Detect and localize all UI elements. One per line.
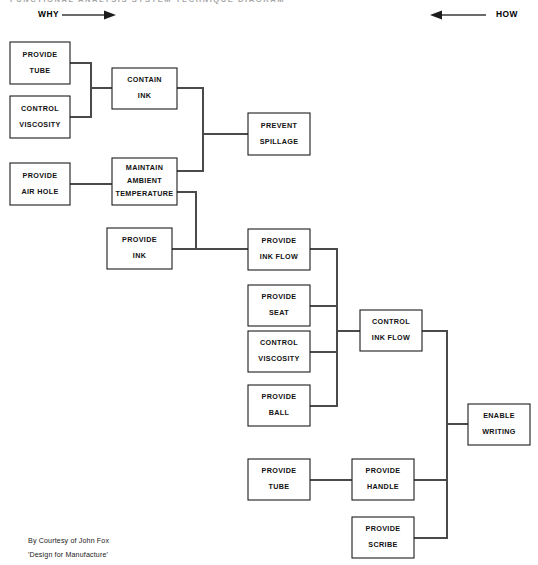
node-box[interactable] bbox=[10, 96, 70, 138]
node-label-line-2: INK FLOW bbox=[372, 333, 410, 342]
node-enable-writing[interactable]: ENABLEWRITING bbox=[468, 404, 530, 445]
node-box[interactable] bbox=[352, 459, 414, 500]
fast-diagram: FUNCTIONAL ANALYSIS SYSTEM TECHNIQUE DIA… bbox=[0, 0, 538, 565]
connector-viscosity-mid-to-bus4 bbox=[310, 331, 337, 352]
node-label-line-1: PROVIDE bbox=[366, 524, 401, 533]
node-label-line-1: MAINTAIN bbox=[126, 163, 163, 172]
node-contain-ink[interactable]: CONTAININK bbox=[112, 68, 177, 109]
node-label-line-1: PREVENT bbox=[261, 121, 298, 130]
connector-control-ink-flow-to-bus5 bbox=[422, 331, 447, 424]
node-label-line-2: TUBE bbox=[30, 66, 51, 75]
node-control-ink-flow[interactable]: CONTROLINK FLOW bbox=[360, 310, 422, 351]
node-label-line-1: CONTROL bbox=[260, 338, 298, 347]
connector-seat-to-bus4 bbox=[310, 306, 337, 331]
connector-temp-to-bus2 bbox=[177, 134, 203, 171]
node-provide-ball[interactable]: PROVIDEBALL bbox=[248, 385, 310, 426]
node-label-line-2: INK bbox=[133, 251, 147, 260]
node-label-line-2: INK FLOW bbox=[260, 252, 298, 261]
connector-viscosity-to-bus1 bbox=[70, 88, 91, 117]
node-provide-seat[interactable]: PROVIDESEAT bbox=[248, 285, 310, 326]
credit-line-1: By Courtesy of John Fox bbox=[28, 537, 109, 545]
node-label-line-1: PROVIDE bbox=[262, 466, 297, 475]
connector-contain-ink-to-bus2 bbox=[177, 88, 203, 134]
node-label-line-2: HANDLE bbox=[367, 482, 399, 491]
connector-tube-to-bus1 bbox=[70, 63, 91, 88]
node-box[interactable] bbox=[248, 229, 310, 270]
how-arrow-icon bbox=[430, 11, 442, 20]
node-box[interactable] bbox=[248, 285, 310, 326]
node-label-line-1: PROVIDE bbox=[23, 50, 58, 59]
node-label-line-2: SEAT bbox=[269, 308, 289, 317]
node-label-line-1: CONTROL bbox=[21, 104, 59, 113]
node-box[interactable] bbox=[360, 310, 422, 351]
node-box[interactable] bbox=[10, 163, 70, 205]
node-label-line-1: CONTAIN bbox=[127, 75, 162, 84]
how-axis-label: HOW bbox=[496, 9, 518, 19]
node-provide-tube-left[interactable]: PROVIDETUBE bbox=[10, 42, 70, 84]
node-label-line-2: VISCOSITY bbox=[258, 354, 300, 363]
node-label-line-1: ENABLE bbox=[483, 411, 515, 420]
node-control-viscosity-left[interactable]: CONTROLVISCOSITY bbox=[10, 96, 70, 138]
node-label-line-1: CONTROL bbox=[372, 317, 410, 326]
node-box[interactable] bbox=[352, 517, 414, 558]
connector-handle-to-bus5 bbox=[414, 424, 447, 480]
node-box[interactable] bbox=[248, 113, 310, 155]
orientation-axis: WHY HOW bbox=[38, 9, 518, 19]
node-provide-tube-bottom[interactable]: PROVIDETUBE bbox=[248, 459, 310, 500]
node-label-line-2: AIR HOLE bbox=[21, 187, 58, 196]
node-label-line-2: TUBE bbox=[269, 482, 290, 491]
why-axis-label: WHY bbox=[38, 9, 59, 19]
node-provide-air-hole[interactable]: PROVIDEAIR HOLE bbox=[10, 163, 70, 205]
connector-temp-to-bus3 bbox=[177, 192, 196, 249]
node-box[interactable] bbox=[10, 42, 70, 84]
node-box[interactable] bbox=[468, 404, 530, 445]
node-label-line-2: VISCOSITY bbox=[19, 120, 61, 129]
node-box[interactable] bbox=[248, 459, 310, 500]
node-box[interactable] bbox=[248, 385, 310, 426]
credit-line-2: 'Design for Manufacture' bbox=[28, 551, 108, 559]
node-label-line-1: PROVIDE bbox=[262, 392, 297, 401]
node-label-line-1: PROVIDE bbox=[23, 171, 58, 180]
connector-ball-to-bus4 bbox=[310, 331, 337, 406]
nodes-layer: PROVIDETUBECONTROLVISCOSITYCONTAININKPRO… bbox=[10, 42, 530, 558]
node-label-line-3: TEMPERATURE bbox=[115, 189, 173, 198]
node-provide-ink-flow[interactable]: PROVIDEINK FLOW bbox=[248, 229, 310, 270]
node-prevent-spillage[interactable]: PREVENTSPILLAGE bbox=[248, 113, 310, 155]
node-box[interactable] bbox=[107, 228, 172, 269]
node-label-line-2: BALL bbox=[269, 408, 290, 417]
node-box[interactable] bbox=[112, 68, 177, 109]
node-provide-ink[interactable]: PROVIDEINK bbox=[107, 228, 172, 269]
node-box[interactable] bbox=[248, 331, 310, 372]
node-label-line-2: SCRIBE bbox=[368, 540, 397, 549]
node-provide-scribe[interactable]: PROVIDESCRIBE bbox=[352, 517, 414, 558]
node-label-line-2: INK bbox=[138, 91, 152, 100]
node-label-line-1: PROVIDE bbox=[122, 235, 157, 244]
node-label-line-1: PROVIDE bbox=[262, 292, 297, 301]
node-label-line-1: PROVIDE bbox=[366, 466, 401, 475]
node-control-viscosity-mid[interactable]: CONTROLVISCOSITY bbox=[248, 331, 310, 372]
connector-ink-flow-to-bus4 bbox=[310, 249, 337, 331]
node-label-line-2: SPILLAGE bbox=[260, 137, 299, 146]
node-label-line-1: PROVIDE bbox=[262, 236, 297, 245]
node-provide-handle[interactable]: PROVIDEHANDLE bbox=[352, 459, 414, 500]
node-label-line-2: WRITING bbox=[482, 427, 516, 436]
node-maintain-ambient-temp[interactable]: MAINTAINAMBIENTTEMPERATURE bbox=[112, 158, 177, 205]
connector-scribe-to-bus5 bbox=[414, 424, 447, 538]
diagram-canvas: WHY HOW PROVIDETUBECONTROLVISCOSITYCONTA… bbox=[0, 0, 538, 565]
node-label-line-2: AMBIENT bbox=[127, 176, 162, 185]
credit-block: By Courtesy of John Fox 'Design for Manu… bbox=[28, 537, 109, 559]
why-arrow-icon bbox=[104, 11, 116, 20]
